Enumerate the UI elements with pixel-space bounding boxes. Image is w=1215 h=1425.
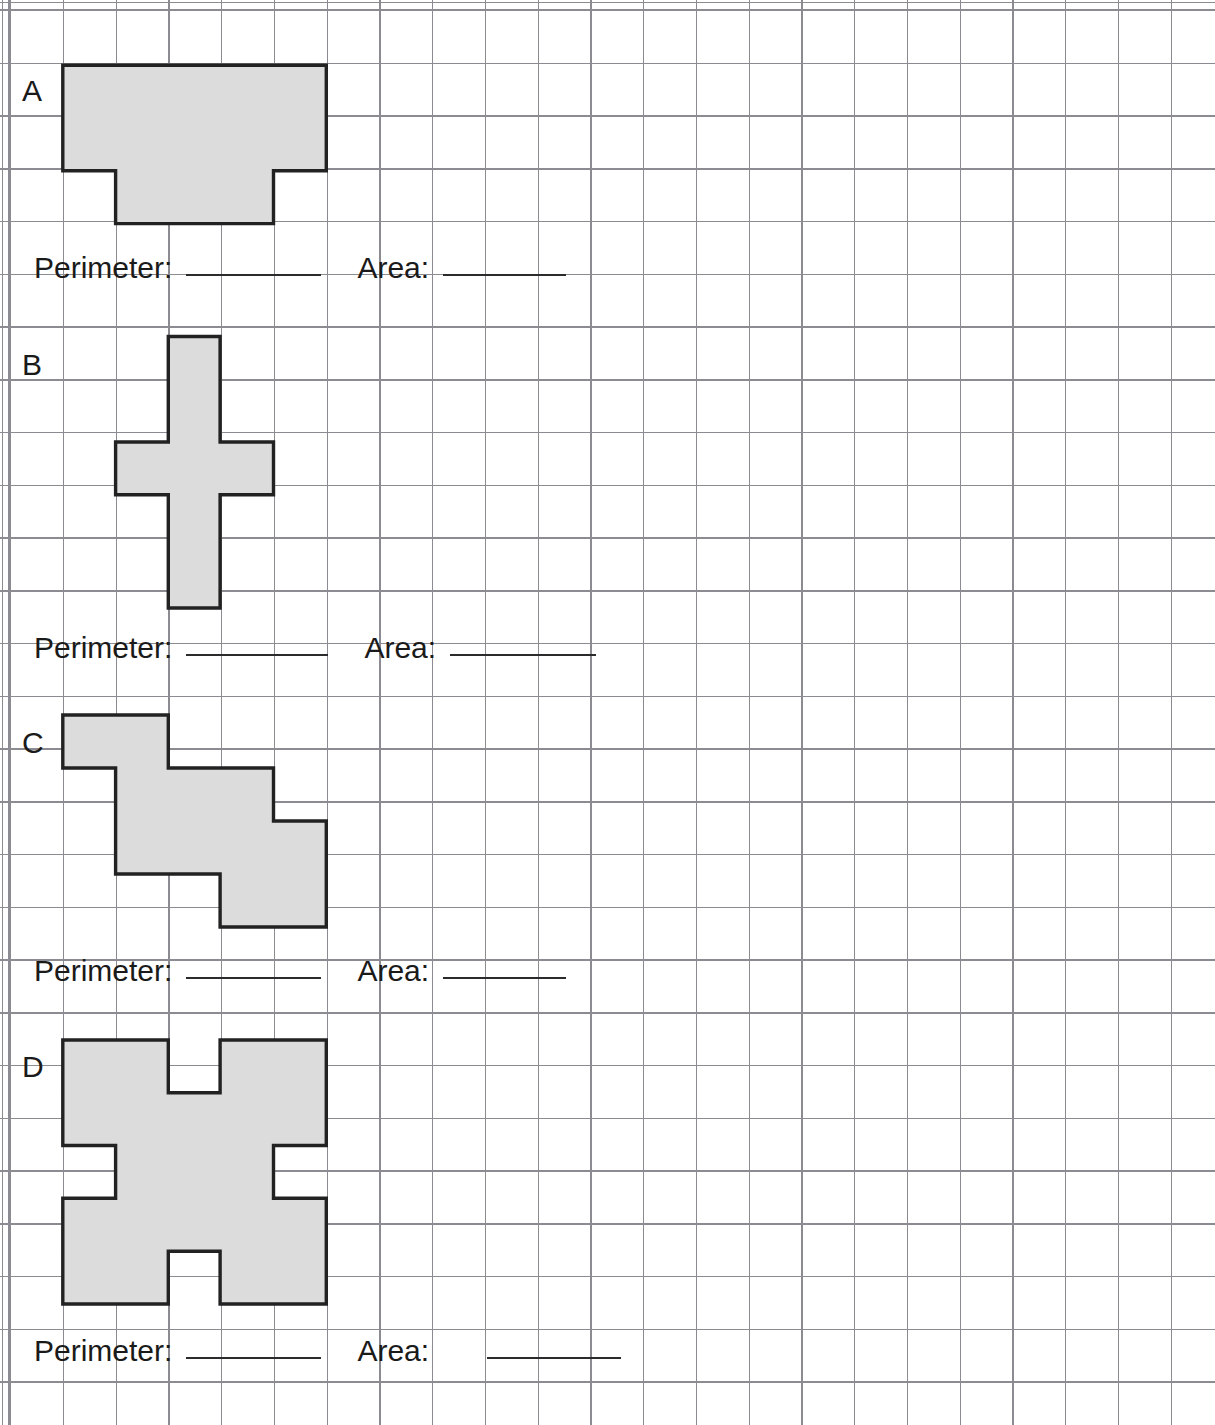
answer-row-d: Perimeter: Area: <box>34 1336 621 1374</box>
shape-d-notched-square-shape <box>0 0 1215 1425</box>
perimeter-answer-blank-d[interactable] <box>186 1357 321 1359</box>
perimeter-label-d: Perimeter: <box>34 1336 172 1366</box>
shape-d-polygon <box>63 1040 327 1304</box>
area-answer-blank-d[interactable] <box>487 1357 621 1359</box>
area-label-d: Area: <box>357 1336 429 1366</box>
worksheet-page: A Perimeter: Area: B Perimeter: Area: C … <box>0 0 1215 1425</box>
